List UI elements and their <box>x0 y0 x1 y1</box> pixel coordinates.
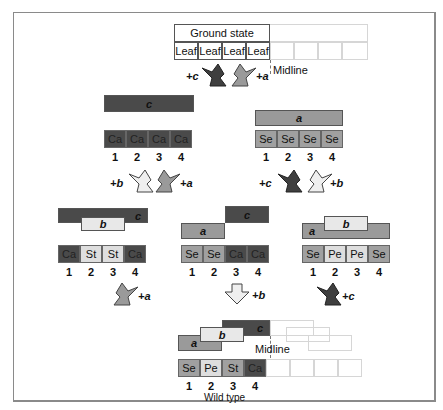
dark-arrow-icon <box>200 64 228 88</box>
arrow-label: +c <box>342 290 355 302</box>
arrow-label: +c <box>259 177 272 189</box>
organ-cell: Ca <box>170 130 192 148</box>
down-arrow-icon <box>224 283 250 305</box>
arrow-label: +b <box>252 289 265 301</box>
bar-label: b <box>219 329 226 341</box>
arrow-label: +a <box>256 70 269 82</box>
organ-cell: Se <box>181 245 203 263</box>
whorl-numbers: 1234 <box>58 266 146 278</box>
arrow-label: +a <box>180 177 193 189</box>
bar-label: a <box>309 225 315 237</box>
bar-label: b <box>100 218 107 230</box>
bar-label: a <box>296 112 302 124</box>
mid-arrow-icon <box>154 170 182 194</box>
ghost-bar-a <box>308 335 352 351</box>
whorl-row: Ca St St Ca <box>58 245 146 263</box>
gene-bar-a: a <box>181 223 225 239</box>
bar-label: b <box>343 218 350 230</box>
gene-bar-b: b <box>324 216 368 231</box>
organ-cell: Pe <box>200 359 222 377</box>
organ-cell: Se <box>203 245 225 263</box>
wild-type-label: Wild type <box>204 392 245 403</box>
arrow-label: +c <box>186 70 199 82</box>
bar-label: a <box>200 225 206 237</box>
bar-label: a <box>191 337 197 349</box>
organ-cell: Se <box>277 130 299 148</box>
whorl-numbers: 1234 <box>178 380 266 392</box>
ghost-cell <box>290 359 314 377</box>
ghost-cell <box>314 359 338 377</box>
organ-cell: St <box>222 359 244 377</box>
light-arrow-icon <box>127 170 155 194</box>
ground-state-title: Ground state <box>190 27 254 39</box>
mid-arrow-icon <box>230 64 258 88</box>
whorl-numbers: 1234 <box>302 266 390 278</box>
organ-cell: Ca <box>126 130 148 148</box>
organ-cell: Ca <box>244 359 266 377</box>
gene-bar-b: b <box>81 217 125 231</box>
organ-cell: Ca <box>247 245 269 263</box>
ground-state-row: Leaf Leaf Leaf Leaf <box>174 42 368 60</box>
ground-state-title-box: Ground state <box>174 24 270 42</box>
whorl-row: Se Pe St Ca <box>178 359 362 377</box>
ground-cell: Leaf <box>174 42 198 60</box>
organ-cell: St <box>102 245 124 263</box>
organ-cell: Ca <box>58 245 80 263</box>
whorl-row: Se Se Ca Ca <box>181 245 269 263</box>
ground-state-ghost-title <box>270 24 368 42</box>
arrow-label: +b <box>330 177 343 189</box>
gene-bar-c: c <box>104 95 194 112</box>
organ-cell: Se <box>321 130 343 148</box>
organ-cell: Ca <box>124 245 146 263</box>
organ-cell: Se <box>368 245 390 263</box>
midline-label: Midline <box>255 343 290 355</box>
organ-cell: Pe <box>346 245 368 263</box>
midline-marker <box>270 60 271 74</box>
dark-arrow-icon <box>315 283 343 307</box>
organ-cell: Se <box>178 359 200 377</box>
organ-cell: Se <box>299 130 321 148</box>
ghost-cell <box>294 42 318 60</box>
organ-cell: Ca <box>225 245 247 263</box>
gene-bar-c: c <box>225 206 269 223</box>
arrow-label: +b <box>110 177 123 189</box>
ground-cell: Leaf <box>222 42 246 60</box>
midline-label: Midline <box>273 64 308 76</box>
organ-cell: Se <box>255 130 277 148</box>
whorl-numbers: 1234 <box>255 151 343 163</box>
arrow-label: +a <box>138 290 151 302</box>
ghost-cell <box>342 42 368 60</box>
whorl-numbers: 1234 <box>104 151 192 163</box>
bar-label: c <box>244 209 250 221</box>
organ-cell: Pe <box>324 245 346 263</box>
whorl-row: Ca Ca Ca Ca <box>104 130 192 148</box>
organ-cell: Ca <box>148 130 170 148</box>
ghost-cell <box>318 42 342 60</box>
bar-label: c <box>146 98 152 110</box>
dark-arrow-icon <box>276 170 304 194</box>
ghost-cell <box>338 359 362 377</box>
whorl-row: Se Se Se Se <box>255 130 343 148</box>
ghost-cell <box>270 42 294 60</box>
bar-label: c <box>135 210 141 222</box>
whorl-row: Se Pe Pe Se <box>302 245 390 263</box>
bar-label: c <box>257 322 263 334</box>
ground-cell: Leaf <box>198 42 222 60</box>
organ-cell: Ca <box>104 130 126 148</box>
ground-cell: Leaf <box>246 42 270 60</box>
gene-bar-a: a <box>255 110 343 126</box>
ghost-cell <box>266 359 290 377</box>
gene-bar-b: b <box>200 327 244 342</box>
organ-cell: St <box>80 245 102 263</box>
organ-cell: Se <box>302 245 324 263</box>
mid-arrow-icon <box>112 283 140 307</box>
whorl-numbers: 1234 <box>181 266 269 278</box>
